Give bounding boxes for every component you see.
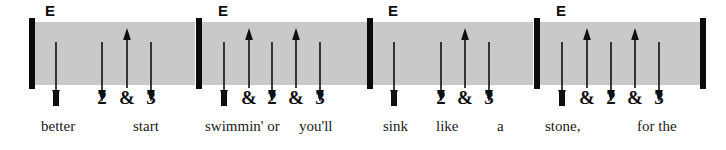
strum-arrow-up — [120, 28, 134, 88]
final-barline — [700, 18, 706, 89]
barline — [534, 18, 540, 89]
chord-label: E — [556, 2, 566, 19]
beat-count: 2 — [600, 88, 622, 108]
beat-count: 3 — [648, 88, 670, 108]
lyric-word: swimmin' or — [205, 118, 280, 135]
beat-count: 3 — [478, 88, 500, 108]
lyric-word: start — [133, 118, 159, 135]
beat-count: 3 — [309, 88, 331, 108]
beat-count: 2 — [261, 88, 283, 108]
chord-label: E — [218, 2, 228, 19]
beat-count: 2 — [91, 88, 113, 108]
beat-count: & — [624, 88, 646, 108]
strum-arrow-up — [289, 28, 303, 88]
beat-count: 3 — [140, 88, 162, 108]
beat-count: & — [238, 88, 260, 108]
lyric-word: better — [41, 118, 75, 135]
beat-count: 1 — [383, 88, 405, 108]
chord-label: E — [388, 2, 398, 19]
strum-arrow-up — [242, 28, 256, 88]
beat-count: 1 — [45, 88, 67, 108]
lyric-word: stone, — [545, 118, 580, 135]
strum-pattern-sheet: E12&3betterstartE1&2&3swimmin' oryou'llE… — [0, 0, 726, 150]
barline — [29, 18, 35, 89]
beat-count: & — [285, 88, 307, 108]
beat-count: & — [576, 88, 598, 108]
lyric-word: you'll — [299, 118, 333, 135]
beat-count: 1 — [551, 88, 573, 108]
strum-arrow-up — [580, 28, 594, 88]
lyric-word: for the — [637, 118, 677, 135]
beat-count: 2 — [430, 88, 452, 108]
beat-count: & — [116, 88, 138, 108]
lyric-word: sink — [383, 118, 408, 135]
lyric-word: a — [497, 118, 504, 135]
lyric-word: like — [436, 118, 459, 135]
chord-label: E — [45, 2, 55, 19]
strum-arrow-up — [628, 28, 642, 88]
beat-count: 1 — [213, 88, 235, 108]
barline — [367, 18, 373, 89]
barline — [196, 18, 202, 89]
beat-count: & — [454, 88, 476, 108]
strum-arrow-up — [458, 28, 472, 88]
